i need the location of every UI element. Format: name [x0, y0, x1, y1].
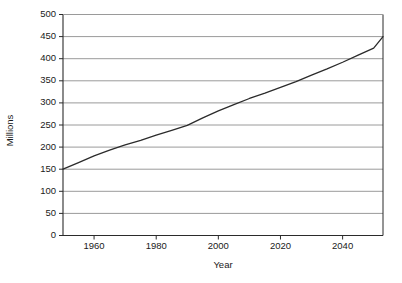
population-line-chart: Millions Year 05010015020025030035040045…: [0, 0, 402, 283]
tick-marks: [59, 15, 343, 240]
plot-area: [0, 0, 402, 283]
gridlines: [63, 15, 383, 236]
